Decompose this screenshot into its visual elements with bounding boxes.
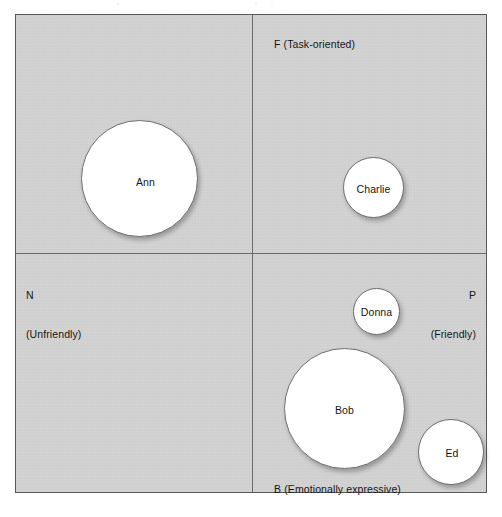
axis-label-right-friendly: P (Friendly) (431, 263, 476, 367)
axis-label-left-letter: N (26, 289, 81, 302)
bubble-ann[interactable]: Ann (81, 120, 198, 237)
bubble-label-bob: Bob (335, 404, 354, 416)
bubble-label-charlie: Charlie (357, 183, 391, 195)
bubble-donna[interactable]: Donna (353, 288, 400, 335)
bubble-charlie[interactable]: Charlie (343, 157, 404, 218)
bubble-label-donna: Donna (361, 306, 392, 318)
axis-label-right-letter: P (431, 289, 476, 302)
axis-label-left-unfriendly: N (Unfriendly) (26, 263, 81, 367)
axis-label-bottom-text: B (Emotionally expressive) (274, 483, 401, 495)
axis-label-top-text: F (Task-oriented) (274, 38, 355, 50)
bubble-ed[interactable]: Ed (418, 419, 484, 485)
axis-label-top-task-oriented: F (Task-oriented) (262, 25, 355, 64)
axis-label-bottom-emotionally-expressive: B (Emotionally expressive) (262, 470, 401, 509)
bubble-bob[interactable]: Bob (284, 348, 405, 469)
axis-label-left-descriptor: (Unfriendly) (26, 328, 81, 341)
scan-noise (0, 0, 502, 10)
axis-label-right-descriptor: (Friendly) (431, 328, 476, 341)
circumplex-plot-frame: F (Task-oriented) N (Unfriendly) P (Frie… (15, 14, 487, 493)
bubble-label-ed: Ed (445, 447, 458, 459)
bubble-label-ann: Ann (136, 176, 155, 188)
horizontal-axis-divider (16, 253, 486, 254)
